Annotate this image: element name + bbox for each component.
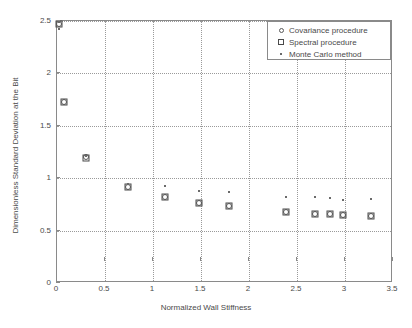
- gridline-vertical: [201, 21, 202, 281]
- data-point-dot: [228, 191, 230, 193]
- data-point-dot: [329, 197, 331, 199]
- y-axis-tick-label: 0.5: [24, 225, 51, 234]
- data-point-dot: [85, 155, 87, 157]
- x-axis-tick-label: 0: [54, 284, 58, 293]
- y-axis-tick: [56, 230, 60, 231]
- x-axis-tick: [296, 257, 297, 261]
- circle-marker-icon: [273, 28, 289, 33]
- y-axis-tick-label: 1.5: [24, 120, 51, 129]
- y-axis-tick: [56, 177, 60, 178]
- data-point-square: [283, 208, 290, 215]
- data-point-square: [367, 212, 374, 219]
- data-point-dot: [198, 190, 200, 192]
- legend-item-label: Monte Carlo method: [289, 50, 361, 59]
- data-point-square: [60, 98, 67, 105]
- legend-item-label: Covariance procedure: [289, 26, 368, 35]
- dot-marker-icon: [273, 53, 289, 55]
- square-marker-icon: [273, 39, 289, 45]
- y-axis-tick: [56, 125, 60, 126]
- scatter-plot-figure: 00.511.522.533.500.511.522.5 Normalized …: [0, 0, 412, 328]
- x-axis-tick: [344, 257, 345, 261]
- gridline-horizontal: [57, 126, 391, 127]
- data-point-dot: [342, 199, 344, 201]
- legend-item-label: Spectral procedure: [289, 38, 357, 47]
- x-axis-tick: [104, 257, 105, 261]
- data-point-dot: [285, 196, 287, 198]
- y-axis-tick-label: 2.5: [24, 16, 51, 25]
- x-axis-tick-label: 3.5: [386, 284, 397, 293]
- data-point-dot: [164, 185, 166, 187]
- gridline-horizontal: [57, 73, 391, 74]
- data-point-dot: [58, 21, 60, 23]
- gridline-vertical: [105, 21, 106, 281]
- data-point-square: [196, 200, 203, 207]
- x-axis-tick: [152, 257, 153, 261]
- data-point-dot: [370, 198, 372, 200]
- legend-item-3[interactable]: Monte Carlo method: [268, 48, 390, 60]
- x-axis-tick: [56, 257, 57, 261]
- x-axis-tick-label: 1.5: [194, 284, 205, 293]
- y-axis-tick-label: 1: [24, 173, 51, 182]
- gridline-horizontal: [57, 231, 391, 232]
- legend-item-2[interactable]: Spectral procedure: [268, 36, 390, 48]
- data-point-square: [225, 203, 232, 210]
- x-axis-tick-label: 2.5: [290, 284, 301, 293]
- y-axis-label: Dimensionless Standard Deviation at the …: [11, 56, 20, 256]
- x-axis-label: Normalized Wall Stiffness: [0, 303, 412, 312]
- data-point-square: [312, 210, 319, 217]
- x-axis-tick-label: 0.5: [98, 284, 109, 293]
- gridline-vertical: [297, 21, 298, 281]
- y-axis-tick-label: 0: [24, 278, 51, 287]
- data-point-square: [340, 211, 347, 218]
- x-axis-tick: [392, 257, 393, 261]
- x-axis-tick-label: 1: [150, 284, 154, 293]
- legend: Covariance procedureSpectral procedureMo…: [267, 21, 391, 60]
- data-point-dot: [314, 196, 316, 198]
- gridline-vertical: [153, 21, 154, 281]
- data-point-dot: [127, 183, 129, 185]
- y-axis-tick: [56, 282, 60, 283]
- gridline-horizontal: [57, 178, 391, 179]
- data-point-square: [161, 194, 168, 201]
- gridline-vertical: [249, 21, 250, 281]
- legend-item-1[interactable]: Covariance procedure: [268, 24, 390, 36]
- y-axis-tick-label: 2: [24, 68, 51, 77]
- x-axis-tick: [200, 257, 201, 261]
- x-axis-tick-label: 3: [342, 284, 346, 293]
- gridline-vertical: [345, 21, 346, 281]
- data-point-dot: [58, 28, 60, 30]
- x-axis-tick-label: 2: [246, 284, 250, 293]
- data-point-square: [326, 210, 333, 217]
- y-axis-tick: [56, 20, 60, 21]
- y-axis-tick: [56, 72, 60, 73]
- x-axis-tick: [248, 257, 249, 261]
